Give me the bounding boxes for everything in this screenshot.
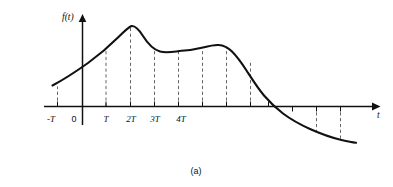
y-axis-label: f(t)	[62, 12, 74, 23]
t-axis	[44, 103, 381, 111]
tick-label-4T: 4T	[176, 114, 187, 124]
f-axis-arrowhead	[79, 14, 87, 22]
x-tick-labels: -T 0 T 2T 3T 4T	[47, 114, 187, 124]
tick-label-T: T	[103, 114, 109, 124]
dashed-sample-lines-above-axis	[58, 27, 251, 107]
tick-label-zero: 0	[71, 114, 76, 124]
tick-label-minus-T: -T	[47, 114, 56, 124]
tick-label-3T: 3T	[149, 114, 161, 124]
x-axis-label: t	[377, 110, 380, 120]
figure-container: f(t) t -T 0 T 2T 3T 4T (a)	[0, 0, 393, 187]
waveform-curve	[53, 26, 357, 143]
waveform-chart: f(t) t -T 0 T 2T 3T 4T (a)	[0, 0, 393, 187]
tick-label-2T: 2T	[126, 114, 137, 124]
figure-caption: (a)	[191, 166, 202, 176]
